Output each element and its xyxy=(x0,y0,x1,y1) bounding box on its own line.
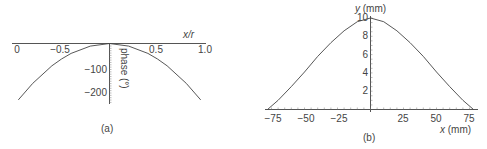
x-tick-label: 1.0 xyxy=(198,44,212,55)
x-tick-label: −50 xyxy=(298,113,315,124)
y-tick-label: 2 xyxy=(362,85,368,96)
x-tick-label: −25 xyxy=(331,113,348,124)
x-axis-label: x (mm) xyxy=(439,124,471,135)
y-tick-label: −200 xyxy=(84,87,107,98)
x-tick-label: 75 xyxy=(463,113,475,124)
x-tick-label: 0 xyxy=(14,44,20,55)
x-tick-label: 50 xyxy=(430,113,442,124)
x-axis-label: x/r xyxy=(182,29,195,40)
profile-chart: −75−50−25255075 108642 y (mm) x (mm) (b) xyxy=(265,3,478,143)
y-tick-label: 4 xyxy=(362,67,368,78)
y-tick-label: −100 xyxy=(84,64,107,75)
y-tick-label: 6 xyxy=(362,49,368,60)
figure: 0−0.50.51.0 −100−200 x/r phase (°) (a) −… xyxy=(0,0,487,149)
y-tick-label: 8 xyxy=(362,30,368,41)
x-tick-label: −0.5 xyxy=(50,44,70,55)
phase-chart: 0−0.50.51.0 −100−200 x/r phase (°) (a) xyxy=(12,29,212,134)
y-axis-label: phase (°) xyxy=(119,48,130,89)
caption-a: (a) xyxy=(101,123,113,134)
x-tick-label: 0.5 xyxy=(149,44,163,55)
caption-b: (b) xyxy=(363,132,375,143)
x-tick-label: −75 xyxy=(265,113,282,124)
x-tick-label: 25 xyxy=(397,113,409,124)
y-axis-label: y (mm) xyxy=(354,3,386,14)
